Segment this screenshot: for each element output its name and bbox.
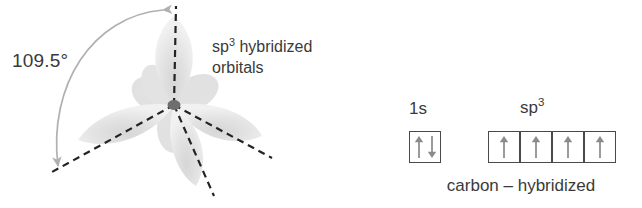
spin-up-arrow-icon bbox=[594, 135, 606, 159]
box-sp3-1[interactable] bbox=[488, 131, 520, 163]
figure-canvas: 109.5° sp3 hybridized orbitals 1s sp3 bbox=[0, 0, 642, 208]
orbital-caption: sp3 hybridized orbitals bbox=[212, 36, 312, 78]
spin-up-arrow-icon bbox=[562, 135, 574, 159]
orbital-box-diagram-panel: 1s sp3 bbox=[380, 0, 642, 208]
orbital-box-row-sp3 bbox=[488, 131, 616, 163]
spin-up-arrow-icon bbox=[530, 135, 542, 159]
spin-down-arrow-icon bbox=[426, 135, 438, 159]
orbital-caption-hybridized: hybridized bbox=[235, 38, 312, 55]
box-sp3-2[interactable] bbox=[520, 131, 552, 163]
spin-up-arrow-icon bbox=[498, 135, 510, 159]
shell-label-1s-text: 1s bbox=[409, 99, 427, 118]
config-caption: carbon – hybridized bbox=[405, 176, 637, 196]
sp3-orbital-geometry-panel: 109.5° sp3 hybridized orbitals bbox=[0, 0, 330, 208]
central-atom-node bbox=[168, 100, 181, 110]
spin-up-arrow-icon bbox=[413, 135, 425, 159]
shell-label-sp3-text: sp bbox=[520, 98, 538, 117]
box-1s[interactable] bbox=[409, 131, 441, 163]
box-sp3-4[interactable] bbox=[584, 131, 616, 163]
shell-label-sp3: sp3 bbox=[520, 98, 544, 118]
bond-angle-label: 109.5° bbox=[12, 50, 68, 72]
orbital-box-row-1s bbox=[409, 131, 441, 163]
box-sp3-3[interactable] bbox=[552, 131, 584, 163]
orbital-caption-line1: sp3 hybridized bbox=[212, 38, 312, 55]
shell-label-1s: 1s bbox=[409, 99, 427, 119]
shell-label-sp3-superscript: 3 bbox=[538, 96, 544, 108]
orbital-caption-sp: sp bbox=[212, 38, 229, 55]
orbital-caption-line2: orbitals bbox=[212, 57, 312, 78]
orbital-geometry-svg bbox=[0, 0, 330, 208]
